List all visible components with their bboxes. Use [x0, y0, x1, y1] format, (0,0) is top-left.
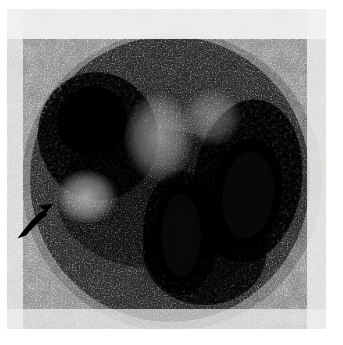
vignette-bottom: [7, 309, 326, 329]
scintigram-canvas: [7, 9, 326, 329]
vignette-left: [7, 9, 23, 329]
cold-defect: [54, 169, 118, 225]
vignette-top: [7, 9, 326, 39]
scan-film: [7, 9, 326, 329]
cold-cleft: [123, 91, 195, 183]
scintigraphy-figure: Thyroid scintigraphy scan Speckled plana…: [0, 0, 343, 345]
vignette-right: [307, 9, 326, 329]
cold-upper-right: [182, 87, 242, 147]
